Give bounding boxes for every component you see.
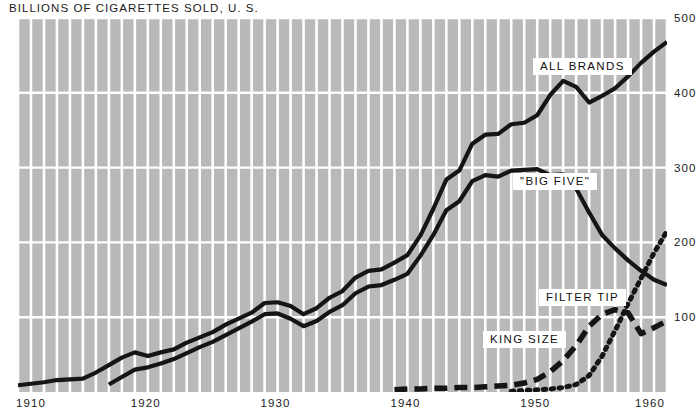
- y-axis-tick-label: 200: [674, 236, 697, 248]
- chart-title: BILLIONS OF CIGARETTES SOLD, U. S.: [9, 2, 259, 14]
- series-label-all-brands: ALL BRANDS: [533, 58, 632, 75]
- series-label-king-size: KING SIZE: [483, 331, 566, 348]
- y-axis-tick-label: 400: [674, 87, 697, 99]
- x-axis-tick-label: 1910: [16, 397, 46, 409]
- x-axis-tick-label: 1920: [131, 397, 161, 409]
- y-axis-tick-label: 300: [674, 162, 697, 174]
- x-axis-tick-label: 1950: [520, 397, 550, 409]
- y-axis-tick-label: 500: [674, 12, 697, 24]
- y-axis-tick-label: 100: [674, 311, 697, 323]
- x-axis-tick-label: 1960: [635, 397, 665, 409]
- series-label-big-five: "BIG FIVE": [513, 173, 597, 190]
- series-label-filter-tip: FILTER TIP: [539, 289, 626, 306]
- x-axis-tick-label: 1930: [261, 397, 291, 409]
- x-axis-tick-label: 1940: [390, 397, 420, 409]
